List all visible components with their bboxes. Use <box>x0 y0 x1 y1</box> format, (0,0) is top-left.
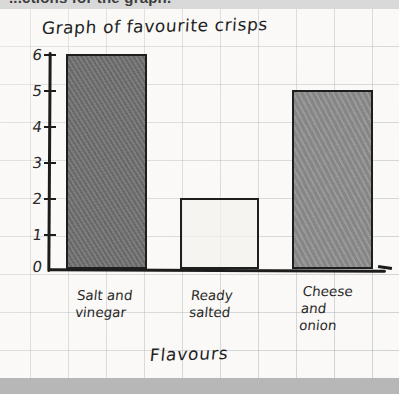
y-tick-6 <box>44 54 56 56</box>
x-axis-title: Flavours <box>149 343 230 365</box>
x-category-label-ready-salted: Ready salted <box>188 287 233 321</box>
y-label-5: 5 <box>19 82 44 100</box>
y-label-3: 3 <box>19 154 44 172</box>
printed-header-text: ...ctions for the graph. <box>9 0 171 6</box>
bar-ready-salted <box>180 198 259 269</box>
x-category-label-cheese-and-onion: Cheese and onion <box>298 283 353 334</box>
y-tick-5 <box>44 90 56 92</box>
bar-salt-and-vinegar <box>66 54 147 269</box>
y-label-2: 2 <box>19 190 44 208</box>
handwritten-bar-chart-page: ...ctions for the graph. Graph of favour… <box>0 0 399 394</box>
y-tick-2 <box>44 198 56 200</box>
y-label-1: 1 <box>19 226 44 244</box>
bar-cheese-and-onion <box>292 90 373 269</box>
y-tick-4 <box>44 126 56 128</box>
y-label-4: 4 <box>19 118 44 136</box>
chart-title: Graph of favourite crisps <box>41 14 269 38</box>
printed-header-strip: ...ctions for the graph. <box>0 0 399 9</box>
y-tick-1 <box>44 234 56 236</box>
y-label-6: 6 <box>19 46 44 64</box>
scan-bottom-strip <box>0 378 399 394</box>
y-tick-3 <box>44 162 56 164</box>
y-label-0: 0 <box>19 258 44 276</box>
x-category-label-salt-and-vinegar: Salt and vinegar <box>74 287 133 321</box>
